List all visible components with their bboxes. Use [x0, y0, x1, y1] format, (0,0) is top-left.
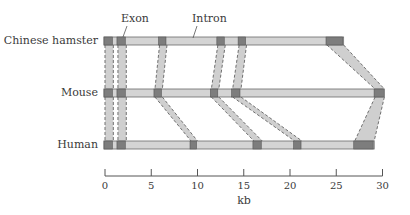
exon-block: [159, 37, 166, 45]
exon-connector: [118, 97, 126, 141]
tick-label: 5: [148, 180, 154, 191]
exon-block: [117, 89, 125, 97]
exon-connector: [211, 45, 225, 89]
tick-label: 10: [191, 180, 204, 191]
exon-block: [232, 89, 240, 97]
exon-block: [326, 37, 343, 45]
tick-label: 20: [284, 180, 297, 191]
exon-block: [154, 89, 161, 97]
exon-connector: [355, 97, 385, 141]
exon-block: [190, 141, 196, 149]
exon-connector: [155, 97, 198, 141]
exon-block: [253, 141, 261, 149]
intron-bar: [104, 89, 384, 97]
exon-block: [117, 141, 125, 149]
gene-structure-diagram: Chinese hamster Mouse Human Exon Intron …: [0, 0, 410, 215]
exon-connector: [327, 45, 384, 89]
exon-block: [238, 37, 245, 45]
exon-block: [374, 89, 383, 97]
intron-bar: [104, 141, 374, 149]
callout-exon: Exon: [121, 12, 149, 25]
exon-block: [217, 37, 224, 45]
exon-connector: [233, 97, 302, 141]
exon-leader-line: [123, 26, 127, 37]
connector-edge-dashed: [327, 45, 375, 89]
exon-connector: [105, 97, 113, 141]
label-human: Human: [2, 138, 98, 151]
exon-connector: [105, 45, 113, 89]
exon-block: [104, 89, 112, 97]
label-mouse: Mouse: [2, 86, 98, 99]
axis-title-kb: kb: [237, 194, 251, 207]
exon-block: [294, 141, 301, 149]
tick-label: 15: [237, 180, 250, 191]
exon-block: [117, 37, 125, 45]
exon-connector: [233, 45, 247, 89]
diagram-canvas: [0, 0, 410, 215]
exon-block: [104, 141, 112, 149]
exon-block: [104, 37, 112, 45]
label-chinese-hamster: Chinese hamster: [2, 34, 98, 47]
tick-label: 0: [102, 180, 108, 191]
exon-block: [210, 89, 217, 97]
connector-edge-dashed: [219, 97, 262, 141]
callout-intron: Intron: [192, 12, 227, 25]
exon-connector: [155, 45, 167, 89]
exon-block: [354, 141, 373, 149]
tick-label: 25: [330, 180, 343, 191]
exon-connector: [118, 45, 126, 89]
exon-connector: [211, 97, 262, 141]
intron-leader-line: [193, 26, 197, 38]
tick-label: 30: [376, 180, 389, 191]
